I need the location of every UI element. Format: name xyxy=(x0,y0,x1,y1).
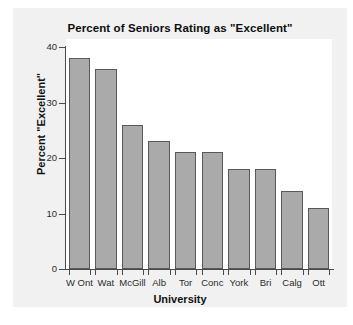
bar xyxy=(148,141,169,269)
x-tick-mark xyxy=(122,270,123,275)
bar xyxy=(69,58,90,269)
x-tick-mark xyxy=(90,270,91,275)
y-tick-mark xyxy=(59,214,65,215)
x-tick-label: York xyxy=(226,277,253,288)
x-tick-label: Conc xyxy=(199,277,226,288)
y-axis-title: Percent "Excellent" xyxy=(35,34,47,214)
x-tick-mark xyxy=(170,270,171,275)
x-tick-mark xyxy=(143,270,144,275)
chart-title: Percent of Seniors Rating as "Excellent" xyxy=(13,22,347,34)
x-tick-label: Wat xyxy=(93,277,120,288)
y-tick-mark xyxy=(59,47,65,48)
bar xyxy=(95,69,116,269)
x-axis-title: University xyxy=(13,293,347,305)
x-tick-label: W Ont xyxy=(66,277,93,288)
x-axis-spine xyxy=(65,269,334,270)
bar xyxy=(281,191,302,269)
bar xyxy=(308,208,329,269)
x-tick-mark xyxy=(303,270,304,275)
x-tick-mark xyxy=(329,270,330,275)
y-tick-mark xyxy=(59,269,65,270)
bar xyxy=(255,169,276,269)
y-tick-mark xyxy=(59,158,65,159)
bar xyxy=(175,152,196,269)
x-tick-mark xyxy=(196,270,197,275)
bar xyxy=(228,169,249,269)
x-tick-label: Bri xyxy=(252,277,279,288)
x-tick-mark xyxy=(281,270,282,275)
x-tick-mark xyxy=(95,270,96,275)
bar xyxy=(122,125,143,269)
x-tick-label: Alb xyxy=(146,277,173,288)
x-tick-mark xyxy=(175,270,176,275)
x-tick-mark xyxy=(148,270,149,275)
chart-figure: Percent of Seniors Rating as "Excellent"… xyxy=(13,8,347,307)
y-tick-mark xyxy=(59,103,65,104)
x-tick-label: Calg xyxy=(279,277,306,288)
x-tick-label: Tor xyxy=(172,277,199,288)
x-tick-mark xyxy=(250,270,251,275)
y-tick-label: 0 xyxy=(13,263,57,274)
x-tick-mark xyxy=(69,270,70,275)
x-tick-mark xyxy=(223,270,224,275)
x-tick-mark xyxy=(308,270,309,275)
y-axis-spine xyxy=(65,46,66,270)
x-tick-mark xyxy=(276,270,277,275)
x-tick-label: Ott xyxy=(305,277,332,288)
bar xyxy=(202,152,223,269)
x-tick-label: McGill xyxy=(119,277,146,288)
x-tick-mark xyxy=(255,270,256,275)
x-tick-mark xyxy=(202,270,203,275)
x-tick-mark xyxy=(228,270,229,275)
x-tick-mark xyxy=(117,270,118,275)
